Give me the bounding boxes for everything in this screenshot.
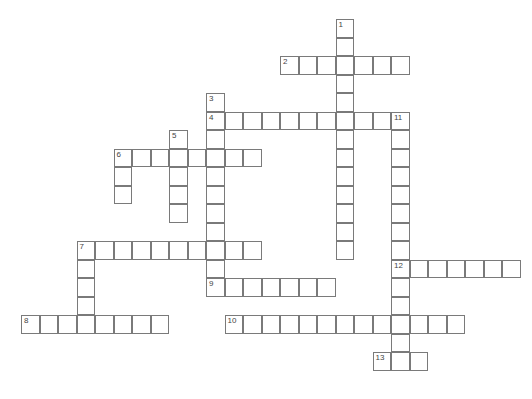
crossword-cell[interactable] <box>391 352 410 371</box>
crossword-cell[interactable] <box>354 315 373 334</box>
crossword-cell[interactable] <box>206 167 225 186</box>
crossword-cell[interactable] <box>354 56 373 75</box>
crossword-cell[interactable] <box>373 112 392 131</box>
crossword-cell[interactable] <box>151 315 170 334</box>
crossword-cell[interactable] <box>169 241 188 260</box>
crossword-cell[interactable] <box>336 38 355 57</box>
crossword-cell[interactable] <box>132 241 151 260</box>
crossword-cell[interactable] <box>280 315 299 334</box>
crossword-cell[interactable] <box>336 167 355 186</box>
crossword-cell[interactable] <box>336 149 355 168</box>
crossword-cell[interactable]: 13 <box>373 352 392 371</box>
crossword-cell[interactable] <box>243 278 262 297</box>
crossword-cell[interactable] <box>225 149 244 168</box>
crossword-cell[interactable] <box>188 149 207 168</box>
crossword-cell[interactable] <box>95 315 114 334</box>
crossword-cell[interactable] <box>206 241 225 260</box>
crossword-cell[interactable] <box>428 260 447 279</box>
crossword-cell[interactable]: 10 <box>225 315 244 334</box>
crossword-cell[interactable] <box>280 112 299 131</box>
crossword-cell[interactable] <box>114 315 133 334</box>
crossword-cell[interactable] <box>169 186 188 205</box>
crossword-cell[interactable] <box>391 315 410 334</box>
crossword-cell[interactable] <box>77 297 96 316</box>
crossword-cell[interactable] <box>391 241 410 260</box>
crossword-cell[interactable] <box>206 223 225 242</box>
crossword-cell[interactable] <box>336 56 355 75</box>
crossword-cell[interactable] <box>299 278 318 297</box>
crossword-cell[interactable] <box>188 241 207 260</box>
crossword-cell[interactable] <box>95 241 114 260</box>
crossword-cell[interactable] <box>336 223 355 242</box>
crossword-cell[interactable] <box>465 260 484 279</box>
crossword-cell[interactable] <box>262 278 281 297</box>
crossword-cell[interactable] <box>391 334 410 353</box>
crossword-cell[interactable] <box>77 315 96 334</box>
crossword-cell[interactable] <box>373 315 392 334</box>
crossword-cell[interactable] <box>225 112 244 131</box>
crossword-cell[interactable] <box>373 56 392 75</box>
crossword-cell[interactable] <box>114 241 133 260</box>
crossword-cell[interactable] <box>336 93 355 112</box>
crossword-cell[interactable]: 11 <box>391 112 410 131</box>
crossword-cell[interactable] <box>169 167 188 186</box>
crossword-cell[interactable] <box>410 315 429 334</box>
crossword-cell[interactable] <box>317 315 336 334</box>
crossword-cell[interactable] <box>132 149 151 168</box>
crossword-cell[interactable] <box>428 315 447 334</box>
crossword-cell[interactable] <box>410 260 429 279</box>
crossword-cell[interactable]: 5 <box>169 130 188 149</box>
crossword-cell[interactable] <box>391 204 410 223</box>
crossword-cell[interactable] <box>447 315 466 334</box>
crossword-cell[interactable]: 9 <box>206 278 225 297</box>
crossword-cell[interactable] <box>391 130 410 149</box>
crossword-cell[interactable] <box>151 149 170 168</box>
crossword-cell[interactable]: 3 <box>206 93 225 112</box>
crossword-cell[interactable] <box>243 112 262 131</box>
crossword-cell[interactable] <box>336 75 355 94</box>
crossword-cell[interactable] <box>151 241 170 260</box>
crossword-cell[interactable] <box>262 315 281 334</box>
crossword-cell[interactable] <box>391 167 410 186</box>
crossword-cell[interactable] <box>40 315 59 334</box>
crossword-cell[interactable] <box>391 149 410 168</box>
crossword-cell[interactable] <box>447 260 466 279</box>
crossword-cell[interactable] <box>299 315 318 334</box>
crossword-cell[interactable] <box>336 186 355 205</box>
crossword-cell[interactable] <box>206 204 225 223</box>
crossword-cell[interactable] <box>206 186 225 205</box>
crossword-cell[interactable]: 1 <box>336 19 355 38</box>
crossword-cell[interactable] <box>114 167 133 186</box>
crossword-cell[interactable] <box>317 56 336 75</box>
crossword-cell[interactable] <box>280 278 299 297</box>
crossword-cell[interactable] <box>206 260 225 279</box>
crossword-cell[interactable] <box>354 112 373 131</box>
crossword-cell[interactable] <box>502 260 521 279</box>
crossword-cell[interactable] <box>317 112 336 131</box>
crossword-cell[interactable]: 8 <box>21 315 40 334</box>
crossword-cell[interactable] <box>77 260 96 279</box>
crossword-cell[interactable]: 12 <box>391 260 410 279</box>
crossword-cell[interactable]: 4 <box>206 112 225 131</box>
crossword-cell[interactable] <box>206 130 225 149</box>
crossword-cell[interactable] <box>77 278 96 297</box>
crossword-cell[interactable] <box>58 315 77 334</box>
crossword-cell[interactable]: 7 <box>77 241 96 260</box>
crossword-cell[interactable]: 6 <box>114 149 133 168</box>
crossword-cell[interactable] <box>225 278 244 297</box>
crossword-cell[interactable] <box>169 149 188 168</box>
crossword-cell[interactable] <box>410 352 429 371</box>
crossword-cell[interactable] <box>243 315 262 334</box>
crossword-cell[interactable] <box>391 186 410 205</box>
crossword-cell[interactable] <box>336 130 355 149</box>
crossword-cell[interactable] <box>243 149 262 168</box>
crossword-cell[interactable] <box>391 223 410 242</box>
crossword-cell[interactable] <box>336 112 355 131</box>
crossword-cell[interactable] <box>336 241 355 260</box>
crossword-cell[interactable]: 2 <box>280 56 299 75</box>
crossword-cell[interactable] <box>299 112 318 131</box>
crossword-cell[interactable] <box>114 186 133 205</box>
crossword-cell[interactable] <box>336 315 355 334</box>
crossword-cell[interactable] <box>225 241 244 260</box>
crossword-cell[interactable] <box>317 278 336 297</box>
